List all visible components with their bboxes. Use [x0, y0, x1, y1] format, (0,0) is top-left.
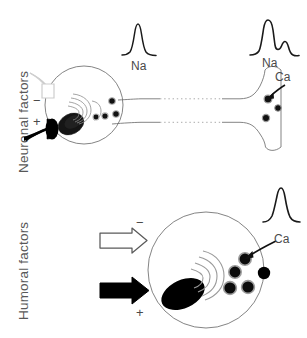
sign-inhibitory-neuronal: −: [33, 93, 41, 108]
label-na-terminal: Na: [262, 56, 277, 70]
trace-soma-spike: [122, 24, 156, 56]
label-ca-terminal: Ca: [275, 70, 290, 84]
soma-membrane-humoral: [148, 212, 264, 328]
panel-humoral: [100, 188, 300, 328]
sign-excitatory-humoral: +: [136, 305, 144, 320]
label-na-soma: Na: [131, 59, 146, 73]
excitatory-arrow-humoral: [100, 277, 149, 304]
figure-canvas: Neuronal factors Humoral factors: [0, 0, 307, 338]
released-granule: [258, 267, 270, 279]
excitatory-synapse-neuronal: [24, 119, 59, 142]
sign-inhibitory-humoral: −: [136, 215, 144, 230]
ca-arrow-terminal: [267, 85, 286, 100]
label-ca-humoral: Ca: [274, 232, 289, 246]
neuron-secretion-diagram: [0, 0, 307, 338]
trace-secretion-spike: [263, 188, 300, 222]
inhibitory-arrow-humoral: [100, 228, 147, 253]
terminal-vesicle-group: [262, 95, 281, 122]
sign-excitatory-neuronal: +: [33, 114, 41, 129]
trace-terminal-spike: [250, 20, 299, 56]
axon-neuronal: [112, 66, 281, 150]
panel-neuronal: [24, 20, 299, 150]
